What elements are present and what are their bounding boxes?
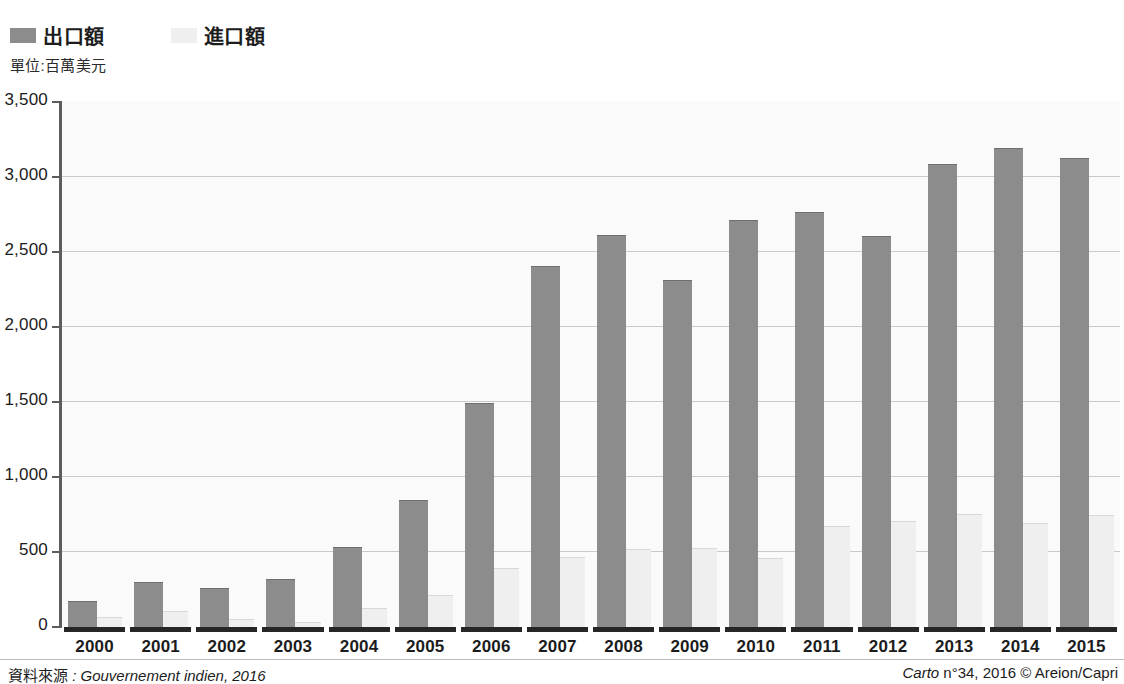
bar-group (64, 101, 125, 632)
bar-imports[interactable] (1019, 523, 1048, 628)
bar-group (329, 101, 390, 632)
x-axis-label: 2003 (262, 637, 323, 657)
bar-group-baseline (395, 627, 456, 632)
chart-legend: 出口額 進口額 (10, 22, 331, 48)
bar-group-baseline (64, 627, 125, 632)
y-axis-tick-label: 0 (38, 615, 48, 635)
bar-exports[interactable] (134, 582, 163, 627)
credit-rest: n°34, 2016 © Areion/Capri (939, 664, 1118, 681)
y-axis-tick (52, 401, 60, 403)
y-axis-tick (52, 626, 60, 628)
bar-imports[interactable] (225, 619, 254, 627)
bar-imports[interactable] (754, 558, 783, 627)
bar-series-container (62, 101, 1120, 632)
x-axis-label: 2009 (659, 637, 720, 657)
bar-group-baseline (990, 627, 1051, 632)
bar-exports[interactable] (465, 403, 494, 628)
x-axis-label: 2015 (1056, 637, 1117, 657)
legend-item-exports: 出口額 (10, 21, 105, 50)
bar-group (130, 101, 191, 632)
bar-exports[interactable] (928, 164, 957, 627)
bar-imports[interactable] (688, 548, 717, 627)
y-axis-tick-label: 3,000 (4, 165, 48, 185)
x-axis-labels: 2000200120022003200420052006200720082009… (62, 637, 1120, 661)
x-axis-label: 2008 (593, 637, 654, 657)
bar-group (858, 101, 919, 632)
y-axis-tick (52, 476, 60, 478)
bar-imports[interactable] (93, 617, 122, 627)
bar-group-baseline (791, 627, 852, 632)
bar-group-baseline (924, 627, 985, 632)
y-axis-tick (52, 251, 60, 253)
x-axis-label: 2005 (395, 637, 456, 657)
bar-group (659, 101, 720, 632)
bar-imports[interactable] (1085, 515, 1114, 627)
bar-exports[interactable] (200, 588, 229, 627)
bar-group-baseline (329, 627, 390, 632)
y-axis-tick (52, 101, 60, 103)
x-axis-label: 2014 (990, 637, 1051, 657)
y-axis-tick (52, 326, 60, 328)
bar-group (725, 101, 786, 632)
y-axis-tick (52, 176, 60, 178)
bar-exports[interactable] (663, 280, 692, 628)
bar-exports[interactable] (795, 212, 824, 627)
bar-imports[interactable] (490, 568, 519, 628)
x-axis-label: 2001 (130, 637, 191, 657)
bar-imports[interactable] (953, 514, 982, 628)
y-axis-tick-label: 500 (19, 540, 48, 560)
x-axis-label: 2010 (725, 637, 786, 657)
bar-exports[interactable] (994, 148, 1023, 628)
x-axis-label: 2002 (196, 637, 257, 657)
bar-imports[interactable] (622, 549, 651, 627)
bar-group (527, 101, 588, 632)
bar-exports[interactable] (862, 236, 891, 627)
bar-group (593, 101, 654, 632)
bar-group (196, 101, 257, 632)
bar-exports[interactable] (399, 500, 428, 627)
legend-label-imports: 進口額 (204, 21, 266, 50)
bar-imports[interactable] (821, 526, 850, 627)
x-axis-label: 2000 (64, 637, 125, 657)
bar-group-baseline (262, 627, 323, 632)
bar-exports[interactable] (68, 601, 97, 628)
bar-group-baseline (593, 627, 654, 632)
bar-exports[interactable] (531, 266, 560, 627)
bar-group-baseline (527, 627, 588, 632)
bar-imports[interactable] (556, 557, 585, 627)
footer-divider (0, 659, 1124, 660)
bar-exports[interactable] (333, 547, 362, 628)
bar-imports[interactable] (358, 608, 387, 627)
source-value: : Gouvernement indien, 2016 (72, 667, 265, 684)
bar-group-baseline (130, 627, 191, 632)
y-axis-tick-label: 2,000 (4, 315, 48, 335)
y-axis-tick (52, 551, 60, 553)
bar-exports[interactable] (597, 235, 626, 628)
legend-swatch-imports-icon (171, 28, 197, 43)
bar-group-baseline (1056, 627, 1117, 632)
bar-exports[interactable] (266, 579, 295, 627)
bar-group-baseline (461, 627, 522, 632)
bar-chart: 05001,0001,5002,0002,5003,0003,500 (0, 95, 1124, 635)
x-axis-label: 2006 (461, 637, 522, 657)
bar-imports[interactable] (424, 595, 453, 627)
credit-publication: Carto (902, 664, 939, 681)
bar-group-baseline (659, 627, 720, 632)
x-axis-label: 2004 (329, 637, 390, 657)
bar-group-baseline (858, 627, 919, 632)
bar-group (1056, 101, 1117, 632)
bar-exports[interactable] (1060, 158, 1089, 627)
source-note: 資料來源 : Gouvernement indien, 2016 (8, 664, 266, 684)
bar-imports[interactable] (887, 521, 916, 627)
bar-imports[interactable] (159, 611, 188, 627)
legend-label-exports: 出口額 (43, 21, 105, 50)
bar-group (924, 101, 985, 632)
bar-group-baseline (196, 627, 257, 632)
bar-imports[interactable] (292, 622, 321, 628)
bar-group (395, 101, 456, 632)
bar-exports[interactable] (729, 220, 758, 628)
x-axis-label: 2011 (791, 637, 852, 657)
y-axis-tick-label: 1,500 (4, 390, 48, 410)
source-label: 資料來源 (8, 667, 68, 684)
x-axis-label: 2007 (527, 637, 588, 657)
